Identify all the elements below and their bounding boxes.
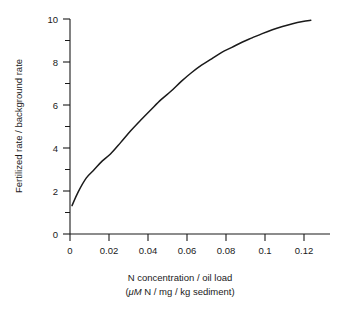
chart-figure: 0 2 4 6 8 10 0 0.02 0.04 0.06 0.08 0.1 0… — [0, 0, 347, 310]
y-tick-label-4: 4 — [53, 143, 58, 154]
data-curve-fertilized-rate — [72, 20, 311, 205]
x-tick-label-004: 0.04 — [139, 245, 158, 256]
y-tick-label-2: 2 — [53, 186, 58, 197]
y-tick-label-10: 10 — [47, 14, 58, 25]
y-tick-label-0: 0 — [53, 229, 58, 240]
chart-canvas: 0 2 4 6 8 10 0 0.02 0.04 0.06 0.08 0.1 0… — [0, 0, 347, 310]
y-tick-label-6: 6 — [53, 100, 58, 111]
x-tick-label-0: 0 — [67, 245, 72, 256]
x-axis-units-rest: N / mg / kg sediment) — [142, 286, 235, 297]
x-axis-units-symbol: μM — [128, 286, 142, 297]
x-axis-title: N concentration / oil load — [128, 272, 233, 283]
y-axis-minor-ticks — [65, 41, 70, 213]
x-axis-major-ticks — [70, 234, 304, 241]
x-tick-label-008: 0.08 — [217, 245, 236, 256]
x-axis-units: (μM N / mg / kg sediment) — [125, 286, 234, 297]
x-tick-label-01: 0.1 — [258, 245, 271, 256]
x-tick-label-002: 0.02 — [100, 245, 119, 256]
y-tick-label-8: 8 — [53, 57, 58, 68]
x-tick-label-012: 0.12 — [295, 245, 314, 256]
y-axis-title: Fertilized rate / background rate — [13, 59, 24, 193]
x-tick-label-006: 0.06 — [178, 245, 197, 256]
